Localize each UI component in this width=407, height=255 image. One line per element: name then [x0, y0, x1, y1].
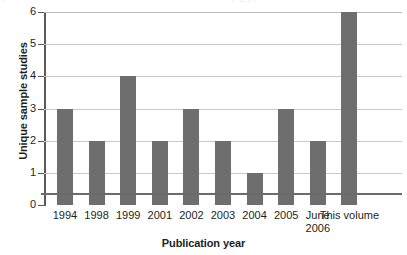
bar: [278, 109, 294, 206]
y-tick-label-0: 0: [14, 199, 36, 210]
bar: [57, 109, 73, 206]
bar-chart-figure: y p g g p Unique sample studies 0123456 …: [0, 0, 407, 255]
cropped-caption-remnant: y p g g p: [0, 0, 407, 5]
bar: [152, 141, 168, 205]
y-tick-label-3: 3: [14, 103, 36, 114]
y-tick-label-2: 2: [14, 135, 36, 146]
bar: [183, 109, 199, 206]
y-tick-label-6: 6: [14, 6, 36, 17]
bar: [89, 141, 105, 205]
bar: [341, 12, 357, 205]
bar: [247, 173, 263, 205]
y-tick-label-4: 4: [14, 70, 36, 81]
y-tick-label-1: 1: [14, 167, 36, 178]
x-axis-title: Publication year: [0, 237, 407, 249]
bar: [310, 141, 326, 205]
x-axis-line: [41, 193, 402, 195]
bar: [120, 76, 136, 205]
plot-area: [44, 12, 402, 205]
cropped-caption-remnant-right: p g g p: [232, 0, 259, 2]
bar: [215, 141, 231, 205]
x-tick-label: This volume: [312, 209, 386, 222]
y-tick-label-5: 5: [14, 38, 36, 49]
cropped-caption-remnant-left: y: [1, 0, 5, 2]
